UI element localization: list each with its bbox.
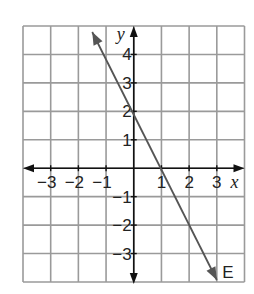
y-tick-label: −1 xyxy=(112,188,131,207)
y-tick-label: 2 xyxy=(122,102,131,121)
y-tick-label: −3 xyxy=(112,245,131,264)
line-e xyxy=(92,32,217,280)
x-tick-label: 3 xyxy=(212,173,221,192)
x-tick-label: −2 xyxy=(65,173,84,192)
y-tick-label: −2 xyxy=(112,216,131,235)
tick-labels: −3−2−11234321−1−2−3 xyxy=(37,45,222,263)
y-tick-label: 3 xyxy=(122,74,131,93)
y-tick-label: 1 xyxy=(122,131,131,150)
x-tick-label: −3 xyxy=(37,173,56,192)
axes xyxy=(23,26,245,284)
coordinate-plane: −3−2−11234321−1−2−3 x y E xyxy=(0,0,254,294)
y-tick-label: 4 xyxy=(122,45,131,64)
x-tick-label: 2 xyxy=(184,173,193,192)
x-axis-label: x xyxy=(230,172,239,192)
line-label-e: E xyxy=(222,263,233,282)
y-axis-label: y xyxy=(115,24,125,44)
x-tick-label: −1 xyxy=(92,173,111,192)
